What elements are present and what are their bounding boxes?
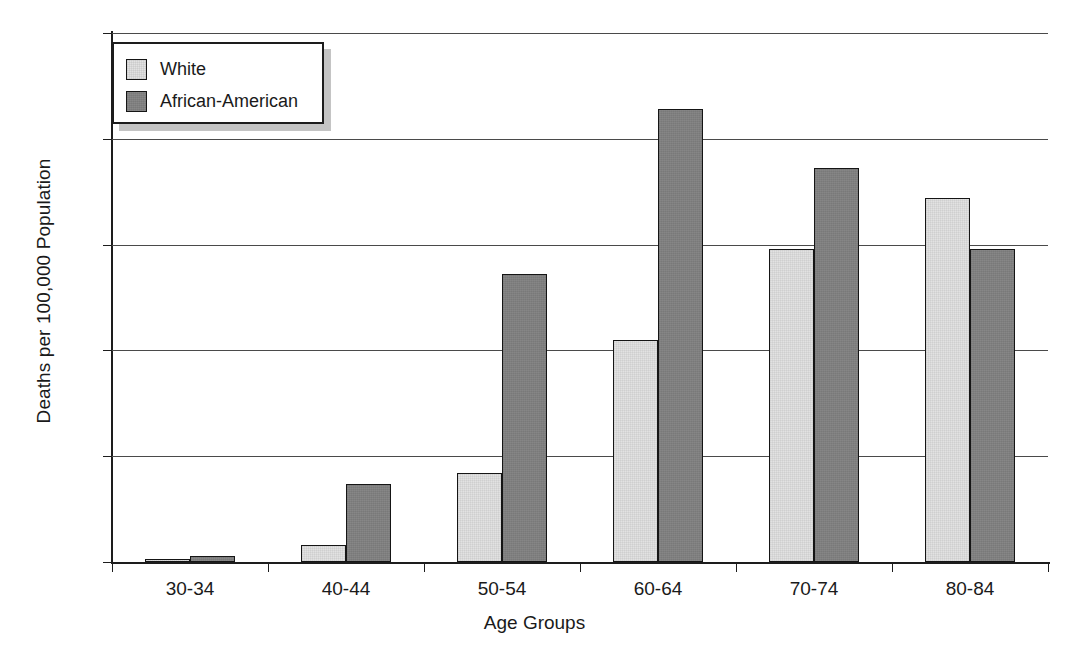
x-tick-label: 70-74 bbox=[736, 578, 892, 600]
x-tick-label: 50-54 bbox=[424, 578, 580, 600]
y-tick-mark bbox=[103, 139, 112, 140]
y-tick-mark bbox=[103, 33, 112, 34]
x-tick-label: 30-34 bbox=[112, 578, 268, 600]
bar bbox=[190, 556, 235, 562]
x-tick-label: 60-64 bbox=[580, 578, 736, 600]
gridline bbox=[112, 139, 1048, 140]
bar bbox=[814, 168, 859, 562]
x-tick-mark bbox=[736, 563, 737, 572]
legend-item: African-American bbox=[126, 85, 322, 117]
legend-label: White bbox=[160, 60, 206, 78]
gridline bbox=[112, 245, 1048, 246]
y-tick-mark bbox=[103, 456, 112, 457]
bar bbox=[769, 249, 814, 562]
bar bbox=[502, 274, 547, 562]
x-tick-label: 40-44 bbox=[268, 578, 424, 600]
gridline bbox=[112, 33, 1048, 34]
legend-label: African-American bbox=[160, 92, 298, 110]
bar bbox=[457, 473, 502, 562]
x-axis-title: Age Groups bbox=[0, 612, 1069, 634]
bar-chart-figure: Deaths per 100,000 Population 0510152025… bbox=[0, 0, 1069, 650]
legend-item: White bbox=[126, 53, 322, 85]
bar bbox=[301, 545, 346, 562]
legend-swatch-icon bbox=[126, 59, 147, 80]
y-axis-title: Deaths per 100,000 Population bbox=[33, 61, 55, 521]
gridline bbox=[112, 350, 1048, 351]
legend-swatch-icon bbox=[126, 91, 147, 112]
bar bbox=[970, 249, 1015, 562]
bar bbox=[145, 559, 190, 562]
x-tick-label: 80-84 bbox=[892, 578, 1048, 600]
bar bbox=[346, 484, 391, 562]
y-tick-mark bbox=[103, 245, 112, 246]
bar bbox=[658, 109, 703, 562]
legend: WhiteAfrican-American bbox=[112, 42, 328, 128]
legend-box: WhiteAfrican-American bbox=[112, 42, 324, 124]
bar bbox=[925, 198, 970, 562]
x-tick-mark bbox=[1048, 563, 1049, 572]
y-tick-mark bbox=[103, 350, 112, 351]
bar bbox=[613, 340, 658, 562]
y-tick-mark bbox=[103, 562, 112, 563]
x-tick-mark bbox=[424, 563, 425, 572]
x-tick-mark bbox=[892, 563, 893, 572]
x-tick-mark bbox=[580, 563, 581, 572]
x-tick-mark bbox=[268, 563, 269, 572]
x-tick-mark bbox=[112, 563, 113, 572]
gridline bbox=[112, 456, 1048, 457]
